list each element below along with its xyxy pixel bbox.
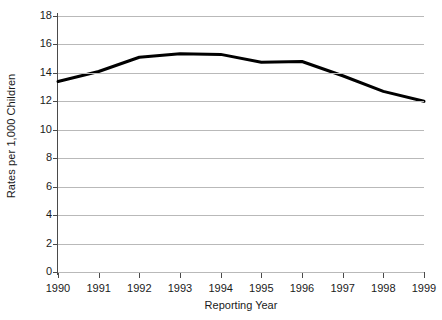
y-axis-tick-label: 10 bbox=[22, 124, 52, 135]
line-chart: Rates per 1,000 Children 024681012141618… bbox=[0, 0, 442, 320]
y-axis-tick-label: 2 bbox=[22, 238, 52, 249]
y-axis-tick bbox=[53, 244, 58, 245]
y-axis-tick-labels: 024681012141618 bbox=[22, 0, 52, 290]
y-axis-tick bbox=[53, 16, 58, 17]
y-axis-tick-label: 16 bbox=[22, 38, 52, 49]
x-axis-tick bbox=[221, 273, 222, 278]
gridline bbox=[58, 16, 424, 17]
gridline bbox=[58, 44, 424, 45]
x-axis-tick-label: 1995 bbox=[239, 282, 283, 294]
gridline bbox=[58, 130, 424, 131]
gridline bbox=[58, 272, 424, 273]
y-axis-tick-label: 6 bbox=[22, 181, 52, 192]
x-axis-tick bbox=[424, 273, 425, 278]
x-axis-tick-label: 1992 bbox=[117, 282, 161, 294]
y-axis-tick-label: 14 bbox=[22, 67, 52, 78]
x-axis-tick-label: 1991 bbox=[77, 282, 121, 294]
gridline bbox=[58, 73, 424, 74]
y-axis-tick-label: 4 bbox=[22, 209, 52, 220]
x-axis-tick bbox=[302, 273, 303, 278]
x-axis-tick bbox=[139, 273, 140, 278]
y-axis-tick-label: 8 bbox=[22, 152, 52, 163]
y-axis-tick bbox=[53, 158, 58, 159]
x-axis-tick-label: 1994 bbox=[199, 282, 243, 294]
gridline bbox=[58, 158, 424, 159]
y-axis-title: Rates per 1,000 Children bbox=[2, 0, 20, 272]
gridline bbox=[58, 215, 424, 216]
x-axis-tick-label: 1998 bbox=[361, 282, 405, 294]
x-axis-tick-label: 1996 bbox=[280, 282, 324, 294]
x-axis-tick-label: 1990 bbox=[36, 282, 80, 294]
y-axis-tick-label: 18 bbox=[22, 10, 52, 21]
gridline bbox=[58, 244, 424, 245]
y-axis-tick bbox=[53, 73, 58, 74]
y-axis-tick bbox=[53, 130, 58, 131]
y-axis-tick bbox=[53, 101, 58, 102]
x-axis-tick bbox=[343, 273, 344, 278]
x-axis-tick bbox=[58, 273, 59, 278]
x-axis-title: Reporting Year bbox=[58, 299, 424, 311]
x-axis-tick bbox=[383, 273, 384, 278]
data-series-line bbox=[58, 16, 424, 272]
y-axis-tick bbox=[53, 187, 58, 188]
x-axis-tick bbox=[180, 273, 181, 278]
gridline bbox=[58, 101, 424, 102]
x-axis-tick bbox=[99, 273, 100, 278]
y-axis-tick-label: 0 bbox=[22, 266, 52, 277]
x-axis-tick-label: 1997 bbox=[321, 282, 365, 294]
y-axis-tick bbox=[53, 44, 58, 45]
y-axis-tick-label: 12 bbox=[22, 95, 52, 106]
x-axis-tick-label: 1999 bbox=[402, 282, 442, 294]
y-axis-tick bbox=[53, 215, 58, 216]
plot-area bbox=[58, 16, 424, 272]
gridline bbox=[58, 187, 424, 188]
x-axis-tick-label: 1993 bbox=[158, 282, 202, 294]
x-axis-tick bbox=[261, 273, 262, 278]
